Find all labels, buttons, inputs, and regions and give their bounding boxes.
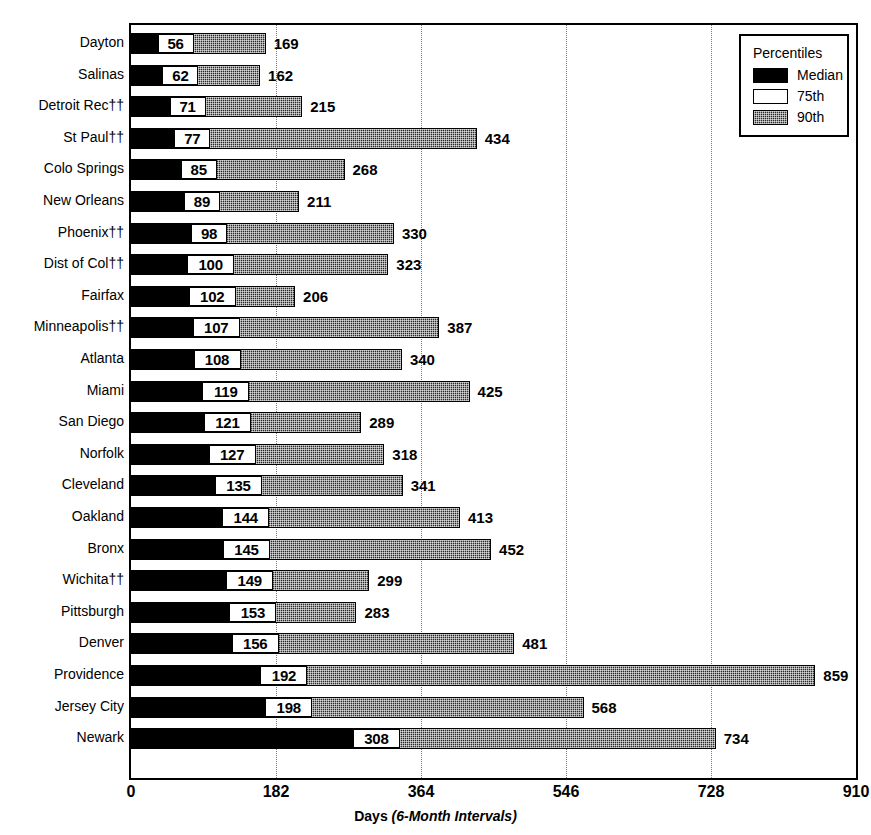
y-axis-label: Wichita†† — [2, 569, 124, 590]
bar-p90-value-label: 330 — [402, 224, 427, 243]
y-axis-label: Jersey City — [2, 696, 124, 717]
box-p75-median-value: 308 — [353, 729, 400, 748]
x-tick-label: 182 — [263, 783, 290, 801]
y-axis-label: Pittsburgh — [2, 601, 124, 622]
legend: Percentiles Median75th90th — [739, 34, 849, 137]
y-axis-label: San Diego — [2, 411, 124, 432]
legend-item-90th: 90th — [753, 109, 837, 125]
table-row: 98330 — [131, 223, 856, 244]
box-p75-median-value: 62 — [162, 66, 198, 85]
y-axis-label: Norfolk — [2, 443, 124, 464]
y-axis-label: Denver — [2, 632, 124, 653]
y-axis-label: Minneapolis†† — [2, 316, 124, 337]
box-p75-median-value: 100 — [187, 255, 234, 274]
table-row: 145452 — [131, 539, 856, 560]
table-row: 119425 — [131, 381, 856, 402]
y-axis-label: Phoenix†† — [2, 222, 124, 243]
legend-item-label: Median — [797, 67, 843, 83]
table-row: 100323 — [131, 254, 856, 275]
legend-swatch-p90 — [753, 110, 788, 125]
legend-swatch-median — [753, 68, 788, 83]
bar-p90-value-label: 859 — [823, 666, 848, 685]
box-p75-median-value: 89 — [184, 192, 220, 211]
bar-p90-value-label: 318 — [392, 445, 417, 464]
bar-p90-value-label: 481 — [522, 634, 547, 653]
box-p75-median-value: 102 — [189, 287, 236, 306]
bar-p90-value-label: 387 — [447, 318, 472, 337]
bar-p90-value-label: 340 — [410, 350, 435, 369]
percentiles-bar-chart: DaytonSalinasDetroit Rec††St Paul††Colo … — [0, 0, 871, 835]
box-p75-median-value: 145 — [223, 540, 270, 559]
table-row: 135341 — [131, 475, 856, 496]
y-axis-label: Cleveland — [2, 474, 124, 495]
y-axis-label: Atlanta — [2, 348, 124, 369]
y-axis-label: Salinas — [2, 64, 124, 85]
x-axis-title-italic: (6-Month Intervals) — [392, 808, 517, 824]
box-p75-median-value: 135 — [215, 476, 262, 495]
table-row: 144413 — [131, 507, 856, 528]
legend-items: Median75th90th — [753, 67, 837, 125]
x-axis-title-bold: Days — [354, 808, 387, 824]
box-p75-median-value: 149 — [226, 571, 273, 590]
bar-p90-value-label: 169 — [274, 34, 299, 53]
bar-p90-value-label: 452 — [499, 540, 524, 559]
x-tick-label: 364 — [408, 783, 435, 801]
bar-p90-value-label: 268 — [353, 160, 378, 179]
bar-p90-value-label: 568 — [592, 698, 617, 717]
table-row: 153283 — [131, 602, 856, 623]
bar-p90-value-label: 323 — [396, 255, 421, 274]
table-row: 127318 — [131, 444, 856, 465]
box-p75-median-value: 198 — [265, 698, 312, 717]
y-axis-label: Oakland — [2, 506, 124, 527]
y-axis-label: Miami — [2, 380, 124, 401]
x-axis: 0182364546728910 Days (6-Month Intervals… — [0, 780, 871, 835]
y-axis-label: Dist of Col†† — [2, 253, 124, 274]
bar-p90-value-label: 289 — [369, 413, 394, 432]
bar-p90-value-label: 162 — [268, 66, 293, 85]
box-p75-median-value: 108 — [194, 350, 241, 369]
y-axis-label: Bronx — [2, 538, 124, 559]
x-tick-label: 546 — [553, 783, 580, 801]
y-axis-labels: DaytonSalinasDetroit Rec††St Paul††Colo … — [0, 23, 124, 780]
bar-p90-value-label: 413 — [468, 508, 493, 527]
x-tick-label: 910 — [843, 783, 870, 801]
box-p75-median-value: 71 — [170, 97, 206, 116]
y-axis-label: Dayton — [2, 32, 124, 53]
y-axis-label: Fairfax — [2, 285, 124, 306]
bar-p90-value-label: 425 — [478, 382, 503, 401]
table-row: 198568 — [131, 697, 856, 718]
bar-p90-value-label: 734 — [724, 729, 749, 748]
table-row: 192859 — [131, 665, 856, 686]
legend-title: Percentiles — [753, 45, 837, 61]
legend-swatch-p75 — [753, 89, 788, 104]
y-axis-label: Providence — [2, 664, 124, 685]
box-p75-median-value: 153 — [229, 603, 276, 622]
y-axis-label: Colo Springs — [2, 158, 124, 179]
x-axis-title: Days (6-Month Intervals) — [0, 808, 871, 824]
y-axis-label: St Paul†† — [2, 127, 124, 148]
table-row: 308734 — [131, 728, 856, 749]
box-p75-median-value: 98 — [191, 224, 227, 243]
box-p75-median-value: 192 — [260, 666, 307, 685]
bar-p90-value-label: 341 — [411, 476, 436, 495]
y-axis-label: New Orleans — [2, 190, 124, 211]
x-tick-label: 728 — [698, 783, 725, 801]
box-p75-median-value: 156 — [232, 634, 279, 653]
box-p75-median-value: 107 — [193, 318, 240, 337]
box-p75-median-value: 85 — [181, 160, 217, 179]
bar-p90-value-label: 215 — [310, 97, 335, 116]
table-row: 85268 — [131, 159, 856, 180]
table-row: 89211 — [131, 191, 856, 212]
legend-item-75th: 75th — [753, 88, 837, 104]
box-p75-median-value: 56 — [158, 34, 194, 53]
box-p75-median-value: 127 — [209, 445, 256, 464]
box-p75-median-value: 77 — [174, 129, 210, 148]
table-row: 102206 — [131, 286, 856, 307]
table-row: 156481 — [131, 633, 856, 654]
legend-item-median: Median — [753, 67, 837, 83]
y-axis-label: Newark — [2, 727, 124, 748]
table-row: 108340 — [131, 349, 856, 370]
legend-item-label: 75th — [797, 88, 824, 104]
bar-p90-value-label: 299 — [377, 571, 402, 590]
legend-item-label: 90th — [797, 109, 824, 125]
